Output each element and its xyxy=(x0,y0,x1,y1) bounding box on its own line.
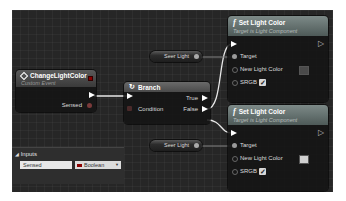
getter-output-pin[interactable] xyxy=(194,54,199,59)
function-icon: f xyxy=(233,18,236,27)
branch-node-header: ↻ Branch xyxy=(124,82,210,92)
event-diamond-icon xyxy=(20,71,28,79)
function-icon: f xyxy=(233,107,236,116)
seer-light-getter-2[interactable]: Seer Light xyxy=(150,140,202,151)
set-node-2-header: f Set Light Color Target is Light Compon… xyxy=(228,105,328,125)
inputs-panel: ◢ Inputs Sensed Boolean ▼ xyxy=(12,147,124,184)
target-label: Target xyxy=(240,142,257,148)
boolean-type-icon xyxy=(77,164,82,167)
sensed-output-label: Sensed xyxy=(62,102,82,108)
blueprint-graph-canvas[interactable]: ChangeLightColor Custom Event Sensed ↻ B… xyxy=(12,10,333,192)
custom-event-node[interactable]: ChangeLightColor Custom Event Sensed xyxy=(16,70,96,112)
set-light-color-node-2[interactable]: f Set Light Color Target is Light Compon… xyxy=(228,105,328,191)
set-node-2-subtitle: Target is Light Component xyxy=(233,117,323,123)
param-name-input[interactable]: Sensed xyxy=(20,161,72,169)
new-color-input-pin[interactable] xyxy=(232,156,238,162)
exec-output-pin[interactable] xyxy=(89,92,95,98)
srgb-input-pin[interactable] xyxy=(232,169,238,175)
branch-node[interactable]: ↻ Branch True Condition False xyxy=(124,82,210,124)
getter-label: Seer Light xyxy=(164,142,189,148)
exec-input-pin[interactable] xyxy=(127,93,133,99)
target-label: Target xyxy=(240,53,257,59)
set-node-1-title: Set Light Color xyxy=(239,19,286,26)
getter-label: Seer Light xyxy=(164,53,189,59)
condition-input-label: Condition xyxy=(138,106,163,112)
false-exec-pin[interactable] xyxy=(202,106,208,112)
set-light-color-node-1[interactable]: f Set Light Color Target is Light Compon… xyxy=(228,16,328,102)
inputs-panel-title[interactable]: ◢ Inputs xyxy=(15,151,37,157)
inputs-title-label: Inputs xyxy=(21,151,37,157)
exec-output-pin[interactable]: ▷ xyxy=(318,129,324,137)
srgb-input-pin[interactable] xyxy=(232,80,238,86)
exec-output-pin[interactable]: ▷ xyxy=(318,40,324,48)
exec-input-pin[interactable] xyxy=(231,41,237,47)
new-color-label: New Light Color xyxy=(240,155,283,161)
color-swatch[interactable] xyxy=(299,155,309,164)
delegate-pin[interactable] xyxy=(88,76,93,81)
event-node-title: ChangeLightColor xyxy=(30,72,87,79)
condition-input-pin[interactable] xyxy=(127,106,132,111)
dropdown-arrow-icon: ▼ xyxy=(115,161,119,169)
true-exec-pin[interactable] xyxy=(202,95,208,101)
branch-icon: ↻ xyxy=(129,83,135,91)
srgb-checkbox[interactable]: ✓ xyxy=(259,168,266,175)
param-type-dropdown[interactable]: Boolean ▼ xyxy=(75,161,121,169)
srgb-label: SRGB xyxy=(240,168,257,174)
target-input-pin[interactable] xyxy=(232,54,237,59)
srgb-checkbox[interactable]: ✓ xyxy=(259,79,266,86)
true-output-label: True xyxy=(186,95,198,101)
new-color-label: New Light Color xyxy=(240,66,283,72)
target-input-pin[interactable] xyxy=(232,143,237,148)
getter-output-pin[interactable] xyxy=(194,143,199,148)
color-swatch[interactable] xyxy=(299,66,309,75)
collapse-arrow-icon: ◢ xyxy=(15,151,19,157)
set-node-2-title: Set Light Color xyxy=(239,108,286,115)
set-node-1-subtitle: Target is Light Component xyxy=(233,28,323,34)
param-type-label: Boolean xyxy=(84,161,104,169)
srgb-label: SRGB xyxy=(240,79,257,85)
branch-node-title: Branch xyxy=(138,84,160,91)
event-node-header: ChangeLightColor Custom Event xyxy=(16,70,96,87)
set-node-1-header: f Set Light Color Target is Light Compon… xyxy=(228,16,328,36)
new-color-input-pin[interactable] xyxy=(232,67,238,73)
sensed-output-pin[interactable] xyxy=(87,103,92,108)
exec-input-pin[interactable] xyxy=(231,130,237,136)
seer-light-getter-1[interactable]: Seer Light xyxy=(150,51,202,62)
false-output-label: False xyxy=(183,106,198,112)
event-node-subtitle: Custom Event xyxy=(21,80,91,86)
